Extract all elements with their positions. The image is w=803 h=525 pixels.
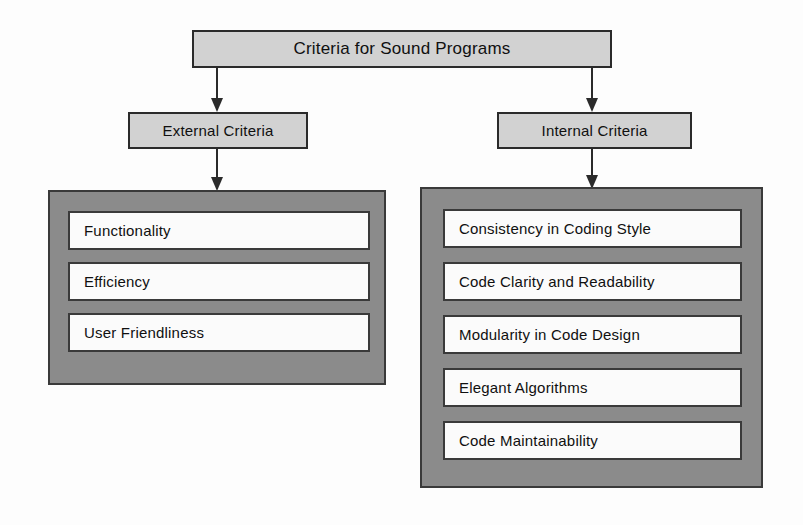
branch-node-external-criteria-label: External Criteria	[163, 122, 274, 139]
root-node-criteria-for-sound-programs: Criteria for Sound Programs	[192, 30, 612, 68]
branch-node-internal-criteria: Internal Criteria	[497, 112, 692, 149]
group-box-internal-criteria: Consistency in Coding Style Code Clarity…	[420, 187, 763, 488]
leaf-item-label: Code Clarity and Readability	[459, 273, 655, 290]
root-node-label: Criteria for Sound Programs	[293, 39, 510, 59]
connector-root-to-external-criteria	[192, 68, 252, 114]
connector-external-criteria-to-group	[192, 149, 252, 193]
leaf-item: Elegant Algorithms	[443, 368, 742, 407]
leaf-item: User Friendliness	[68, 313, 370, 352]
leaf-item-label: Efficiency	[84, 273, 150, 290]
leaf-item-label: Consistency in Coding Style	[459, 220, 651, 237]
leaf-item-label: Modularity in Code Design	[459, 326, 640, 343]
leaf-item-label: User Friendliness	[84, 324, 204, 341]
leaf-item: Code Maintainability	[443, 421, 742, 460]
connector-internal-criteria-to-group	[562, 149, 632, 191]
group-box-external-criteria: Functionality Efficiency User Friendline…	[48, 190, 386, 385]
leaf-item-label: Functionality	[84, 222, 171, 239]
leaf-item: Efficiency	[68, 262, 370, 301]
leaf-item: Consistency in Coding Style	[443, 209, 742, 248]
leaf-item: Code Clarity and Readability	[443, 262, 742, 301]
leaf-item: Functionality	[68, 211, 370, 250]
connector-root-to-internal-criteria	[562, 68, 632, 114]
branch-node-internal-criteria-label: Internal Criteria	[542, 122, 648, 139]
leaf-item-label: Code Maintainability	[459, 432, 598, 449]
branch-node-external-criteria: External Criteria	[128, 112, 308, 149]
diagram-canvas: Criteria for Sound Programs External Cri…	[0, 0, 803, 525]
leaf-item: Modularity in Code Design	[443, 315, 742, 354]
leaf-item-label: Elegant Algorithms	[459, 379, 588, 396]
